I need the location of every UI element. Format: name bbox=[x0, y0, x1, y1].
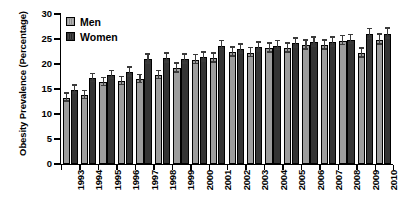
bar-women-2004 bbox=[273, 46, 280, 165]
x-axis-label-1996: 1996 bbox=[130, 170, 141, 190]
error-bar-cap bbox=[182, 62, 187, 63]
x-axis-label-2007: 2007 bbox=[333, 170, 344, 190]
x-axis-label-2006: 2006 bbox=[315, 170, 326, 190]
bar-men-2007 bbox=[321, 45, 328, 164]
bar-women-2007 bbox=[329, 42, 336, 164]
bar-group bbox=[210, 14, 225, 164]
bar-group bbox=[155, 14, 170, 164]
x-axis-label-1998: 1998 bbox=[167, 170, 178, 190]
bar-group bbox=[284, 14, 299, 164]
bar-women-2005 bbox=[292, 43, 299, 164]
y-axis-tick bbox=[54, 138, 61, 139]
error-bar-cap bbox=[201, 51, 206, 52]
bar-group bbox=[192, 14, 207, 164]
bar-men-2003 bbox=[247, 53, 254, 165]
error-bar-cap bbox=[285, 42, 290, 43]
x-axis-label-2000: 2000 bbox=[204, 170, 215, 190]
bar-men-1995 bbox=[99, 82, 106, 164]
x-axis-label-2004: 2004 bbox=[278, 170, 289, 190]
error-bar-cap bbox=[145, 62, 150, 63]
bar-group bbox=[376, 14, 391, 164]
x-axis-label-1994: 1994 bbox=[93, 170, 104, 190]
error-bar-cap bbox=[303, 48, 308, 49]
error-bar-cap bbox=[201, 60, 206, 61]
error-bar-cap bbox=[119, 76, 124, 77]
error-bar-cap bbox=[359, 56, 364, 57]
x-axis-label-1999: 1999 bbox=[185, 170, 196, 190]
error-bar-cap bbox=[127, 66, 132, 67]
legend-label-women: Women bbox=[80, 31, 118, 43]
error-bar-cap bbox=[90, 73, 95, 74]
bar-women-1997 bbox=[144, 59, 151, 164]
error-bar-cap bbox=[340, 35, 345, 36]
bar-men-1993 bbox=[63, 98, 70, 165]
error-bar-cap bbox=[211, 52, 216, 53]
bar-group bbox=[247, 14, 262, 164]
obesity-prevalence-bar-chart: Obesity Prevalence (Percentage) 05101520… bbox=[0, 0, 401, 220]
error-bar-cap bbox=[293, 37, 298, 38]
x-axis-label-2010: 2010 bbox=[388, 170, 399, 190]
bar-men-2005 bbox=[284, 48, 291, 164]
bar-group bbox=[173, 14, 188, 164]
error-bar-cap bbox=[164, 52, 169, 53]
error-bar-cap bbox=[230, 55, 235, 56]
error-bar-cap bbox=[164, 61, 169, 62]
error-bar-cap bbox=[267, 42, 272, 43]
bar-men-2001 bbox=[210, 58, 217, 164]
error-bar-cap bbox=[256, 50, 261, 51]
error-bar-cap bbox=[359, 47, 364, 48]
x-axis-label-1997: 1997 bbox=[149, 170, 160, 190]
error-bar-cap bbox=[267, 51, 272, 52]
x-axis-label-2002: 2002 bbox=[241, 170, 252, 190]
y-axis-tick bbox=[54, 163, 61, 164]
x-axis-label-2008: 2008 bbox=[351, 170, 362, 190]
bar-group bbox=[229, 14, 244, 164]
y-axis-tick bbox=[54, 113, 61, 114]
y-axis-tick-label: 5 bbox=[26, 134, 52, 144]
bar-men-1999 bbox=[173, 68, 180, 164]
x-axis-label-2005: 2005 bbox=[296, 170, 307, 190]
x-axis-label-2001: 2001 bbox=[222, 170, 233, 190]
error-bar-cap bbox=[174, 71, 179, 72]
bar-men-2006 bbox=[302, 45, 309, 164]
bar-women-1996 bbox=[126, 72, 133, 164]
y-axis-tick-label: 10 bbox=[26, 109, 52, 119]
error-bar-cap bbox=[377, 33, 382, 34]
bar-women-1995 bbox=[107, 75, 114, 164]
error-bar-cap bbox=[248, 47, 253, 48]
bar-women-1998 bbox=[163, 58, 170, 164]
bar-group bbox=[136, 14, 151, 164]
x-axis-label-2003: 2003 bbox=[259, 170, 270, 190]
bar-women-1994 bbox=[89, 78, 96, 164]
error-bar-cap bbox=[348, 43, 353, 44]
error-bar-cap bbox=[385, 27, 390, 28]
error-bar-cap bbox=[219, 49, 224, 50]
error-bar-cap bbox=[182, 53, 187, 54]
error-bar-cap bbox=[293, 46, 298, 47]
y-axis-tick-label: 15 bbox=[26, 84, 52, 94]
error-bar-cap bbox=[156, 70, 161, 71]
error-bar-cap bbox=[330, 45, 335, 46]
error-bar-cap bbox=[330, 36, 335, 37]
error-bar-cap bbox=[109, 78, 114, 79]
error-bar-cap bbox=[275, 40, 280, 41]
legend-label-men: Men bbox=[80, 16, 101, 28]
x-axis-tick bbox=[61, 165, 62, 170]
error-bar-cap bbox=[377, 43, 382, 44]
y-axis-tick-label: 20 bbox=[26, 59, 52, 69]
y-axis-tick bbox=[54, 38, 61, 39]
x-axis-label-1993: 1993 bbox=[75, 170, 86, 190]
bar-group bbox=[358, 14, 373, 164]
legend-swatch-women-icon bbox=[66, 32, 75, 41]
y-axis-tick bbox=[54, 63, 61, 64]
error-bar-cap bbox=[322, 48, 327, 49]
bar-women-2002 bbox=[237, 49, 244, 164]
bar-women-2003 bbox=[255, 47, 262, 164]
error-bar-cap bbox=[137, 82, 142, 83]
bar-women-2001 bbox=[218, 46, 225, 165]
legend-item-men: Men bbox=[66, 14, 118, 29]
error-bar-cap bbox=[385, 37, 390, 38]
error-bar-cap bbox=[311, 36, 316, 37]
error-bar-cap bbox=[64, 100, 69, 101]
error-bar-cap bbox=[127, 75, 132, 76]
